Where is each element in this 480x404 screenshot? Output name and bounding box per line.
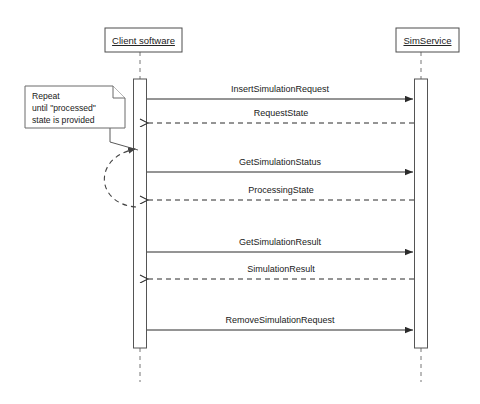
repeat-loop-arrow	[104, 149, 136, 207]
note-line-1: Repeat	[32, 91, 60, 101]
participant-label-service: SimService	[403, 35, 451, 46]
note-line-3: state is provided	[32, 115, 95, 125]
message-label-get-simulation-status: GetSimulationStatus	[239, 157, 322, 167]
note-line-2: until "processed"	[32, 103, 96, 113]
message-label-request-state: RequestState	[254, 108, 309, 118]
sequence-diagram-canvas: Client software SimService Repeat until …	[0, 0, 480, 404]
message-label-simulation-result: SimulationResult	[247, 264, 315, 274]
participant-label-client: Client software	[112, 35, 175, 46]
message-label-processing-state: ProcessingState	[248, 185, 314, 195]
sequence-diagram-svg: Client software SimService Repeat until …	[0, 0, 480, 404]
note-fold-corner-icon	[113, 86, 125, 98]
activation-bar-client	[134, 79, 147, 348]
message-label-remove-simulation-request: RemoveSimulationRequest	[225, 315, 335, 325]
message-label-get-simulation-result: GetSimulationResult	[239, 237, 322, 247]
activation-bar-service	[415, 79, 428, 348]
message-label-insert-simulation-request: InsertSimulationRequest	[231, 84, 330, 94]
